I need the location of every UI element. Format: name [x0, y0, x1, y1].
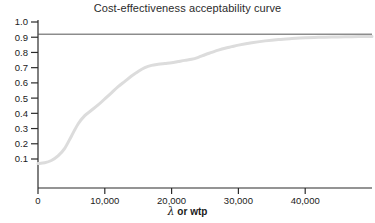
y-tick-label: 0.1: [15, 153, 28, 164]
x-axis-title-rest: or wtp: [175, 206, 208, 217]
x-axis-ticks: [38, 188, 305, 194]
y-axis-tick-labels: 0.10.20.30.40.50.60.70.80.91.0: [15, 16, 28, 164]
y-tick-label: 0.9: [15, 32, 28, 43]
y-tick-label: 0.8: [15, 47, 28, 58]
y-tick-label: 0.3: [15, 123, 28, 134]
x-axis: 010,00020,00030,00040,000: [35, 188, 372, 206]
x-axis-title: λ or wtp: [0, 205, 375, 218]
chart-figure: Cost-effectiveness acceptability curve 0…: [0, 0, 375, 223]
plot-area: 0.10.20.30.40.50.60.70.80.91.0 010,00020…: [0, 0, 375, 223]
y-tick-label: 0.6: [15, 77, 28, 88]
y-tick-label: 1.0: [15, 16, 28, 27]
y-tick-label: 0.7: [15, 62, 28, 73]
series-line-acceptability-curve: [38, 36, 372, 163]
y-tick-label: 0.2: [15, 138, 28, 149]
y-axis: 0.10.20.30.40.50.60.70.80.91.0: [15, 16, 38, 188]
lambda-symbol: λ: [168, 205, 175, 218]
y-axis-ticks: [31, 22, 38, 159]
y-tick-label: 0.5: [15, 93, 28, 104]
y-tick-label: 0.4: [15, 108, 28, 119]
data-series-group: [38, 36, 372, 163]
